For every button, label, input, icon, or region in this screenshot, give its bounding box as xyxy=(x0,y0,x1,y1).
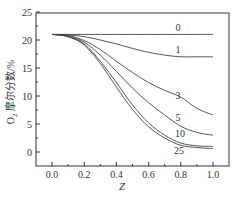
x-tick-label: 1.0 xyxy=(207,169,220,180)
y-tick-label: 20 xyxy=(22,35,32,46)
y-tick-label: 5 xyxy=(27,119,32,130)
y-axis: 0510152025 xyxy=(22,7,40,158)
series-lines xyxy=(52,34,213,148)
curve-label-5: 5 xyxy=(176,112,181,123)
series-line-25 xyxy=(52,34,213,148)
line-chart: 0510152025 0.00.20.40.60.81.0 01351025 Z… xyxy=(0,0,244,198)
y-axis-label: O2 摩尔分数/% xyxy=(4,60,19,124)
x-tick-label: 0.4 xyxy=(110,169,123,180)
curve-label-0: 0 xyxy=(176,22,181,33)
x-axis: 0.00.20.40.60.81.0 xyxy=(46,162,220,180)
curve-label-10: 10 xyxy=(175,128,185,139)
y-tick-label: 10 xyxy=(22,91,32,102)
chart-container: 0510152025 0.00.20.40.60.81.0 01351025 Z… xyxy=(0,0,244,198)
y-tick-label: 15 xyxy=(22,63,32,74)
x-tick-label: 0.8 xyxy=(175,169,188,180)
curve-label-3: 3 xyxy=(176,90,181,101)
curve-label-25: 25 xyxy=(174,145,184,156)
y-tick-label: 25 xyxy=(22,7,32,18)
series-line-5 xyxy=(52,34,213,135)
x-axis-label: Z xyxy=(119,180,126,192)
curve-label-1: 1 xyxy=(176,44,181,55)
curve-labels: 01351025 xyxy=(174,22,185,156)
x-tick-label: 0.6 xyxy=(142,169,155,180)
y-tick-label: 0 xyxy=(27,147,32,158)
x-tick-label: 0.2 xyxy=(78,169,91,180)
series-line-3 xyxy=(52,34,213,115)
x-tick-label: 0.0 xyxy=(46,169,59,180)
